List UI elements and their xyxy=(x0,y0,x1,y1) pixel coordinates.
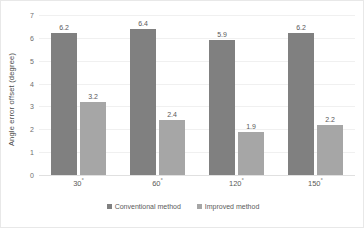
bar-group: 6.23.2 xyxy=(39,15,118,175)
bar-wrapper: 6.2 xyxy=(288,15,314,175)
legend-label: Conventional method xyxy=(115,203,181,210)
bar-wrapper: 6.2 xyxy=(51,15,77,175)
bar[interactable] xyxy=(317,125,343,175)
plot-area: 76543210 6.23.26.42.45.91.96.22.2 xyxy=(39,15,355,175)
chart-container: Angle error offset (degree) 76543210 6.2… xyxy=(0,0,364,228)
bar-value-label: 6.2 xyxy=(296,24,306,31)
bar[interactable] xyxy=(288,33,314,175)
y-axis-tick-label: 1 xyxy=(30,149,34,156)
x-axis-tick-label: 30° xyxy=(39,177,118,193)
bar-group: 6.22.2 xyxy=(276,15,355,175)
bar-value-label: 2.4 xyxy=(167,111,177,118)
bar-value-label: 5.9 xyxy=(217,31,227,38)
bar-value-label: 3.2 xyxy=(88,93,98,100)
bar-group: 5.91.9 xyxy=(197,15,276,175)
chart-legend: Conventional methodImproved method xyxy=(1,197,364,215)
bar-wrapper: 6.4 xyxy=(130,15,156,175)
bar-wrapper: 1.9 xyxy=(238,15,264,175)
bar-value-label: 6.2 xyxy=(59,24,69,31)
y-axis-tick-label: 0 xyxy=(30,172,34,179)
bars-layer: 6.23.26.42.45.91.96.22.2 xyxy=(39,15,355,175)
x-axis-labels: 30°60°120°150° xyxy=(39,177,355,193)
legend-label: Improved method xyxy=(205,203,259,210)
degree-symbol: ° xyxy=(81,177,83,183)
bar[interactable] xyxy=(209,40,235,175)
y-axis-tick-label: 6 xyxy=(30,34,34,41)
y-axis-tick-label: 2 xyxy=(30,126,34,133)
bar-value-label: 2.2 xyxy=(325,116,335,123)
bar-wrapper: 3.2 xyxy=(80,15,106,175)
degree-symbol: ° xyxy=(242,177,244,183)
gridline xyxy=(39,175,355,176)
y-axis-title: Angle error offset (degree) xyxy=(1,1,23,197)
bar[interactable] xyxy=(80,102,106,175)
bar-value-label: 1.9 xyxy=(246,123,256,130)
bar[interactable] xyxy=(159,120,185,175)
bar-group: 6.42.4 xyxy=(118,15,197,175)
bar-wrapper: 2.2 xyxy=(317,15,343,175)
y-axis-tick-label: 3 xyxy=(30,103,34,110)
y-axis-tick-label: 7 xyxy=(30,12,34,19)
y-axis-tick-label: 5 xyxy=(30,57,34,64)
legend-item[interactable]: Conventional method xyxy=(107,203,181,210)
degree-symbol: ° xyxy=(321,177,323,183)
degree-symbol: ° xyxy=(160,177,162,183)
x-axis-tick-label: 60° xyxy=(118,177,197,193)
y-axis-tick-label: 4 xyxy=(30,80,34,87)
bar-wrapper: 2.4 xyxy=(159,15,185,175)
bar-wrapper: 5.9 xyxy=(209,15,235,175)
legend-item[interactable]: Improved method xyxy=(197,203,259,210)
y-axis-title-text: Angle error offset (degree) xyxy=(8,52,17,145)
x-axis-tick-label: 120° xyxy=(197,177,276,193)
bar-value-label: 6.4 xyxy=(138,20,148,27)
bar[interactable] xyxy=(238,132,264,175)
bar[interactable] xyxy=(51,33,77,175)
legend-swatch-icon xyxy=(107,204,112,209)
bar[interactable] xyxy=(130,29,156,175)
x-axis-tick-label: 150° xyxy=(276,177,355,193)
legend-swatch-icon xyxy=(197,204,202,209)
